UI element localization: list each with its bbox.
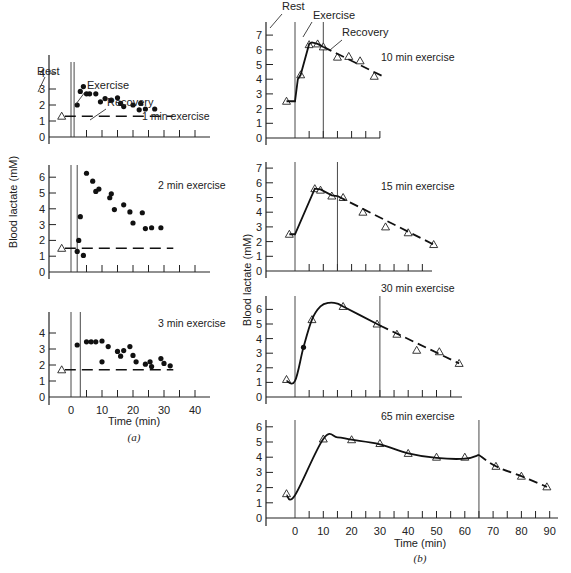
x-tick-label: 30 xyxy=(374,525,386,537)
title-2min: 2 min exercise xyxy=(158,179,226,191)
data-point xyxy=(158,225,163,230)
triangle-marker xyxy=(433,453,441,460)
y-tick-label: 0 xyxy=(256,512,262,524)
data-point xyxy=(127,344,132,349)
y-tick-label: 2 xyxy=(39,359,45,371)
y-tick-label: 3 xyxy=(39,343,45,355)
y-tick-label: 1 xyxy=(256,376,262,388)
panel-a-label: (a) xyxy=(128,431,141,444)
panel-b: 0123456701234567012345601234560102030405… xyxy=(256,22,558,537)
exercise-label-b: Exercise xyxy=(313,9,355,21)
y-tick-label: 5 xyxy=(256,192,262,204)
data-point xyxy=(90,179,95,184)
recovery-curve xyxy=(479,455,547,487)
data-point xyxy=(99,338,104,343)
y-tick-label: 3 xyxy=(39,219,45,231)
x-tick-label: 10 xyxy=(317,525,329,537)
data-point xyxy=(149,225,154,230)
data-point xyxy=(143,226,148,231)
data-point xyxy=(130,353,135,358)
x-tick-label: 40 xyxy=(189,404,201,416)
blood-lactate-figure: 01234012345601234010203040 0123456701234… xyxy=(0,0,571,573)
y-tick-label: 5 xyxy=(256,318,262,330)
y-tick-label: 5 xyxy=(256,436,262,448)
title-10min: 10 min exercise xyxy=(381,51,455,63)
subplot-30-min-exercise: 0123456 xyxy=(256,296,463,404)
y-tick-label: 6 xyxy=(256,44,262,56)
data-point xyxy=(115,349,120,354)
data-point xyxy=(93,339,98,344)
data-point xyxy=(149,364,154,369)
subplot-65-min-exercise: 01234560102030405060708090 xyxy=(256,420,558,537)
y-tick-label: 1 xyxy=(256,117,262,129)
data-point xyxy=(93,91,98,96)
leader-line xyxy=(330,40,342,50)
triangle-marker xyxy=(413,346,421,353)
data-point xyxy=(78,89,83,94)
data-point xyxy=(98,99,103,104)
leader-line xyxy=(270,14,282,28)
triangle-marker xyxy=(435,348,443,355)
rest-label-b: Rest xyxy=(282,0,305,12)
y-tick-label: 5 xyxy=(39,187,45,199)
left-xlabel: Time (min) xyxy=(108,415,160,427)
exercise-label: Exercise xyxy=(87,79,129,91)
subplot-10-min-exercise: 01234567 xyxy=(256,22,383,145)
right-xlabel: Time (min) xyxy=(394,537,446,549)
y-tick-label: 2 xyxy=(256,236,262,248)
triangle-marker xyxy=(58,244,66,251)
data-point xyxy=(81,253,86,258)
y-tick-label: 1 xyxy=(39,115,45,127)
data-point xyxy=(78,214,83,219)
y-tick-label: 1 xyxy=(256,497,262,509)
data-point xyxy=(75,342,80,347)
recovery-label: Recovery xyxy=(107,96,154,108)
data-point xyxy=(168,363,173,368)
data-point xyxy=(158,356,163,361)
x-tick-label: 80 xyxy=(515,525,527,537)
data-point xyxy=(89,339,94,344)
right-ylabel: Blood lactate (mM) xyxy=(241,234,253,326)
y-tick-label: 4 xyxy=(256,206,262,218)
x-tick-label: 40 xyxy=(402,525,414,537)
y-tick-label: 2 xyxy=(39,234,45,246)
data-point xyxy=(75,249,80,254)
triangle-marker xyxy=(58,366,66,373)
title-30min: 30 min exercise xyxy=(381,282,455,294)
data-point xyxy=(134,359,139,364)
triangle-marker xyxy=(58,112,66,119)
y-tick-label: 3 xyxy=(256,221,262,233)
recovery-curve xyxy=(323,47,382,76)
data-point xyxy=(121,348,126,353)
x-tick-label: 60 xyxy=(459,525,471,537)
x-tick-label: 0 xyxy=(292,525,298,537)
y-tick-label: 4 xyxy=(39,203,45,215)
title-65min: 65 min exercise xyxy=(381,410,455,422)
y-tick-label: 0 xyxy=(256,132,262,144)
triangle-marker xyxy=(382,223,390,230)
y-tick-label: 2 xyxy=(256,482,262,494)
leader-line xyxy=(303,22,312,37)
data-point xyxy=(121,202,126,207)
title-15min: 15 min exercise xyxy=(381,180,455,192)
triangle-marker xyxy=(356,57,364,64)
y-tick-label: 3 xyxy=(256,347,262,359)
y-tick-label: 6 xyxy=(256,177,262,189)
annotation-leaders xyxy=(38,14,342,120)
x-tick-label: 90 xyxy=(544,525,556,537)
y-tick-label: 4 xyxy=(256,333,262,345)
y-tick-label: 5 xyxy=(256,59,262,71)
y-tick-label: 4 xyxy=(256,73,262,85)
data-point xyxy=(84,171,89,176)
y-tick-label: 0 xyxy=(256,391,262,403)
data-point xyxy=(130,220,135,225)
exercise-curve xyxy=(287,42,324,101)
data-point xyxy=(84,339,89,344)
y-tick-label: 1 xyxy=(256,250,262,262)
recovery-curve xyxy=(337,196,433,245)
y-tick-label: 6 xyxy=(39,171,45,183)
y-tick-label: 7 xyxy=(256,162,262,174)
y-tick-label: 1 xyxy=(39,250,45,262)
title-3min: 3 min exercise xyxy=(158,317,226,329)
y-tick-label: 2 xyxy=(256,103,262,115)
